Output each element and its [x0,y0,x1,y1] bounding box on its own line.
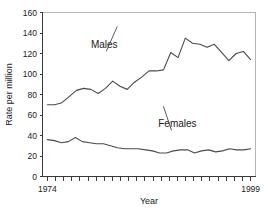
x-axis-title: Year [140,196,158,206]
line-chart-figure: 02040608010012014016019741999YearRate pe… [0,0,267,211]
series-line-males [47,38,250,105]
y-tick-label: 140 [23,28,37,38]
series-label-females: Females [158,118,196,129]
y-tick-label: 20 [28,151,38,161]
y-tick-label: 0 [32,172,37,182]
y-tick-label: 160 [23,8,37,18]
y-tick-label: 80 [28,90,38,100]
y-axis-title: Rate per million [4,63,14,126]
x-tick-label-first: 1974 [38,184,57,194]
plot-frame [43,13,256,177]
y-tick-label: 60 [28,110,38,120]
y-tick-label: 120 [23,49,37,59]
x-tick-label-last: 1999 [241,184,260,194]
chart-canvas: 02040608010012014016019741999YearRate pe… [0,0,267,211]
y-tick-label: 100 [23,69,37,79]
series-label-males: Males [91,39,118,50]
series-line-females [47,138,250,153]
y-tick-label: 40 [28,131,38,141]
